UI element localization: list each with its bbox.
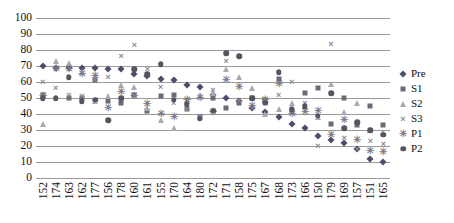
- data-point-p1: ✳: [275, 79, 283, 89]
- x-axis-label: 160: [128, 182, 140, 222]
- data-point-pre: [131, 70, 138, 77]
- data-point-s2: [354, 100, 360, 106]
- legend-item-p2[interactable]: P2: [398, 141, 454, 156]
- gridline: [36, 34, 390, 35]
- data-point-p1: ✳: [78, 69, 86, 79]
- data-point-s1: [289, 108, 294, 113]
- data-point-s2: [79, 69, 85, 75]
- x-axis-label: 150: [312, 182, 324, 222]
- gridline: [36, 82, 390, 83]
- data-point-s3: ×: [341, 134, 346, 143]
- x-axis-label-text: 171: [220, 182, 232, 199]
- legend-item-s2[interactable]: S2: [398, 96, 454, 111]
- x-axis-label: 167: [259, 182, 271, 222]
- x-axis-label: 172: [207, 182, 219, 222]
- y-axis-label: 30: [0, 124, 32, 136]
- gridline: [36, 178, 390, 179]
- data-point-p1: ✳: [353, 135, 361, 145]
- data-point-p1: ✳: [261, 95, 269, 105]
- x-axis-label-text: 173: [286, 182, 298, 199]
- x-axis-label-text: 169: [338, 182, 350, 199]
- gridline: [36, 18, 390, 19]
- data-point-s2: [144, 105, 150, 111]
- data-point-s1: [184, 107, 189, 112]
- x-axis-label-text: 151: [364, 182, 376, 199]
- legend-label: P2: [411, 143, 423, 154]
- data-point-p1: ✳: [222, 75, 230, 85]
- plot-area: ×××××××××××××××××××××××××××✳✳✳✳✳✳✳✳✳✳✳✳✳…: [36, 18, 390, 178]
- legend-marker-circle-icon: [398, 144, 408, 154]
- data-point-s1: [197, 115, 202, 120]
- data-point-s1: [315, 86, 320, 91]
- x-axis-label: 161: [141, 182, 153, 222]
- x-axis-label: 151: [364, 182, 376, 222]
- data-point-s2: [184, 98, 190, 104]
- data-point-s2: [53, 58, 59, 64]
- legend-item-s3[interactable]: ×S3: [398, 111, 454, 126]
- data-point-p2: [276, 70, 282, 76]
- x-axis-label-text: 161: [141, 182, 153, 199]
- x-axis-label: 173: [286, 182, 298, 222]
- x-axis-label: 156: [102, 182, 114, 222]
- data-point-p1: ✳: [379, 147, 387, 157]
- y-axis-label: 40: [0, 108, 32, 120]
- y-axis-label: 90: [0, 28, 32, 40]
- x-axis-label: 171: [220, 182, 232, 222]
- y-axis-label: 10: [0, 156, 32, 168]
- data-point-s3: ×: [237, 95, 242, 104]
- data-point-pre: [249, 104, 256, 111]
- data-point-pre: [144, 72, 151, 79]
- data-point-s3: ×: [79, 92, 84, 101]
- data-point-p1: ✳: [91, 71, 99, 81]
- legend-item-pre[interactable]: Pre: [398, 66, 454, 81]
- data-point-p2: [210, 108, 216, 114]
- data-point-s1: [171, 92, 176, 97]
- legend-label: Pre: [411, 68, 426, 79]
- x-axis-label-text: 168: [273, 182, 285, 199]
- data-point-p2: [354, 119, 360, 125]
- data-point-s3: ×: [381, 140, 386, 149]
- y-axis-label: 70: [0, 60, 32, 72]
- x-axis-label-text: 150: [312, 182, 324, 199]
- x-axis-label: 164: [181, 182, 193, 222]
- data-point-s2: [223, 66, 229, 72]
- legend-marker-square-icon: [398, 84, 408, 94]
- x-axis-label: 158: [233, 182, 245, 222]
- x-axis-label: 180: [194, 182, 206, 222]
- data-point-s3: ×: [197, 111, 202, 120]
- data-point-s3: ×: [302, 98, 307, 107]
- data-point-s3: ×: [132, 41, 137, 50]
- data-point-s1: [302, 91, 307, 96]
- legend-label: S3: [411, 113, 423, 124]
- data-point-p2: [105, 118, 111, 124]
- data-point-s2: [66, 60, 72, 66]
- data-point-pre: [196, 83, 203, 90]
- data-point-s2: [315, 114, 321, 120]
- legend-item-s1[interactable]: S1: [398, 81, 454, 96]
- x-axis-label: 178: [115, 182, 127, 222]
- data-point-p2: [184, 102, 190, 108]
- data-point-s1: [224, 105, 229, 110]
- data-point-s3: ×: [158, 82, 163, 91]
- data-point-p1: ✳: [327, 130, 335, 140]
- chart-legend: PreS1S2×S3✳P1P2: [398, 66, 454, 156]
- data-point-s3: ×: [223, 57, 228, 66]
- y-axis-label: 100: [0, 12, 32, 24]
- data-point-s1: [237, 100, 242, 105]
- x-axis-label-text: 165: [377, 182, 389, 199]
- legend-item-p1[interactable]: ✳P1: [398, 126, 454, 141]
- x-axis-label-text: 180: [194, 182, 206, 199]
- x-axis-label: 179: [325, 182, 337, 222]
- data-point-p1: ✳: [104, 103, 112, 113]
- data-point-s1: [106, 99, 111, 104]
- data-point-p1: ✳: [117, 87, 125, 97]
- x-axis-label-text: 164: [181, 182, 193, 199]
- x-axis-label: 152: [37, 182, 49, 222]
- x-axis-tick-labels: 1521741631621771561781601611551701641801…: [36, 180, 390, 223]
- data-point-p2: [289, 106, 295, 112]
- data-point-p1: ✳: [130, 91, 138, 101]
- data-point-s2: [131, 84, 137, 90]
- x-axis-label-text: 158: [233, 182, 245, 199]
- data-point-p1: ✳: [143, 99, 151, 109]
- gridline: [36, 146, 390, 147]
